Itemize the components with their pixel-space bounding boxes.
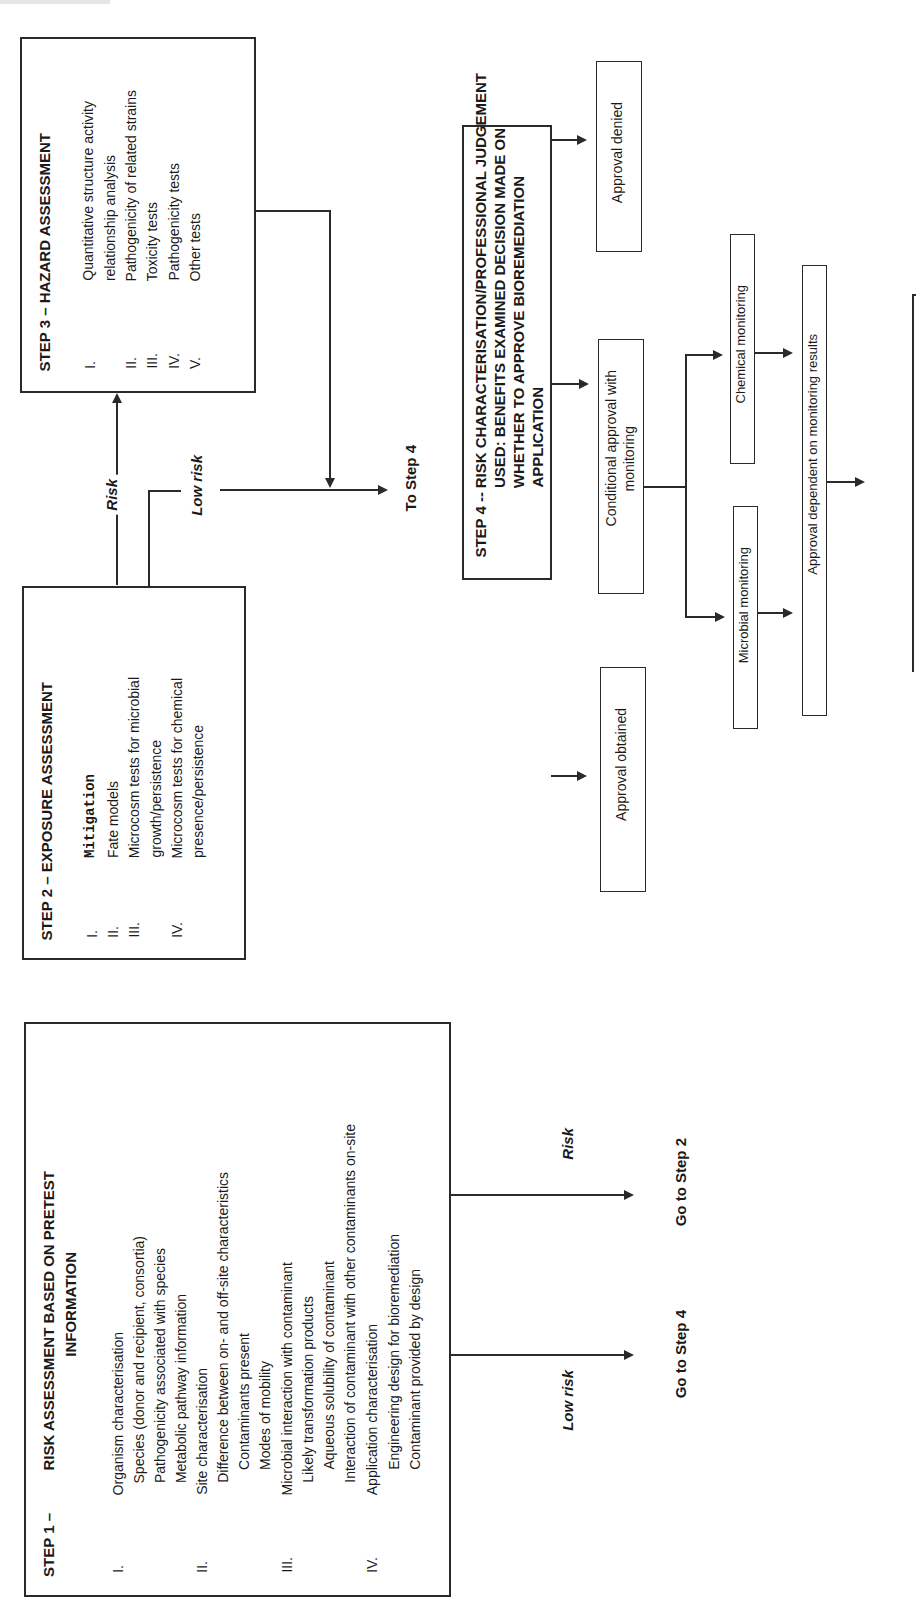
step2-title: STEP 2 – EXPOSURE ASSESSMENT bbox=[38, 682, 57, 940]
step1-numeral-3: III. bbox=[279, 1557, 297, 1573]
step1-numeral-4: IV. bbox=[364, 1557, 382, 1573]
connector-microbial-out bbox=[758, 612, 785, 614]
step3-item-3: Toxicity tests bbox=[144, 202, 162, 281]
connector-step2-low-risk-stub bbox=[148, 490, 150, 586]
arrow-right-icon bbox=[783, 608, 793, 618]
step2-numeral-4: IV. bbox=[169, 922, 187, 938]
step4-risk-characterisation-box: STEP 4 -- RISK CHARACTERISATION/PROFESSI… bbox=[462, 125, 552, 580]
approval-dependent-label: Approval dependent on monitoring results bbox=[805, 334, 821, 575]
step2-exposure-assessment-box: STEP 2 – EXPOSURE ASSESSMENT I. II. III.… bbox=[22, 586, 246, 960]
step1-section2-item3: Modes of mobility bbox=[257, 1361, 275, 1470]
step3-hazard-assessment-box: STEP 3 – HAZARD ASSESSMENT I. II. III. I… bbox=[20, 37, 256, 393]
arrow-up-icon bbox=[112, 393, 122, 403]
approval-dependent-box: Approval dependent on monitoring results bbox=[802, 265, 827, 716]
step2-item-2: Fate models bbox=[105, 781, 123, 858]
to-step4-label: To Step 4 bbox=[402, 445, 421, 511]
arrow-right-icon bbox=[378, 485, 388, 495]
approval-obtained-box: Approval obtained bbox=[600, 667, 646, 892]
connector-step3-out bbox=[255, 210, 331, 212]
step1-section4-item1: Engineering design for bioremediation bbox=[386, 1234, 404, 1470]
arrow-right-icon bbox=[577, 771, 587, 781]
step3-item-1-line2: relationship analysis bbox=[102, 155, 120, 281]
connector-step1-low-risk bbox=[451, 1354, 626, 1356]
connector-step2-low-risk-elbow bbox=[148, 490, 181, 492]
step4-label: STEP 4 -- bbox=[472, 492, 491, 558]
step1-section2-item2: Contaminants present bbox=[236, 1333, 254, 1470]
step3-item-5: Other tests bbox=[187, 213, 205, 281]
arrow-down-icon bbox=[325, 478, 335, 488]
chemical-monitoring-box: Chemical monitoring bbox=[730, 234, 755, 464]
step1-pretest-risk-assessment-box: STEP 1 – RISK ASSESSMENT BASED ON PRETES… bbox=[24, 1022, 451, 1597]
step1-low-risk-label: Low risk bbox=[559, 1370, 578, 1431]
step1-section1-item1: Species (donor and recipient, consortia) bbox=[131, 1236, 149, 1483]
step1-section1-heading: Organism characterisation bbox=[110, 1332, 128, 1495]
step3-numeral-4: IV. bbox=[166, 353, 184, 369]
step1-section3-item1: Likely transformation products bbox=[300, 1296, 318, 1483]
conditional-approval-line1: Conditional approval with bbox=[603, 370, 621, 526]
connector-step1-risk bbox=[451, 1194, 626, 1196]
step2-numeral-3: III. bbox=[126, 922, 144, 938]
step4-title-line2: USED: BENEFITS EXAMINED DECISION MADE ON bbox=[491, 128, 510, 488]
step1-section2-item1: Difference between on- and off-site char… bbox=[215, 1172, 233, 1483]
arrow-right-icon bbox=[713, 350, 723, 360]
connector-step3-down bbox=[329, 210, 331, 480]
connector-conditional-out bbox=[644, 486, 686, 488]
step1-title-line2: INFORMATION bbox=[62, 1252, 81, 1357]
arrow-right-icon bbox=[577, 135, 587, 145]
step3-numeral-5: V. bbox=[187, 357, 205, 369]
step1-section3-item3: Interaction of contaminant with other co… bbox=[342, 1124, 360, 1483]
conditional-approval-box: Conditional approval with monitoring bbox=[598, 339, 644, 594]
step2-numeral-1: I. bbox=[84, 930, 102, 938]
connector-monitoring-split bbox=[685, 354, 687, 618]
microbial-monitoring-label: Microbial monitoring bbox=[736, 547, 752, 663]
step1-label: STEP 1 – bbox=[40, 1513, 59, 1577]
connector-dependent-out bbox=[827, 481, 857, 483]
connector-step4-denied bbox=[551, 139, 579, 141]
approval-obtained-label: Approval obtained bbox=[613, 708, 631, 821]
arrow-right-icon bbox=[783, 348, 793, 358]
step1-numeral-2: II. bbox=[194, 1561, 212, 1573]
microbial-monitoring-box: Microbial monitoring bbox=[733, 506, 758, 729]
step1-section1-item3: Metabolic pathway information bbox=[173, 1294, 191, 1483]
arrow-right-icon bbox=[579, 379, 589, 389]
step2-item-4-line1: Microcosm tests for chemical bbox=[169, 678, 187, 858]
connector-step4-obtained bbox=[551, 775, 579, 777]
step3-item-2: Pathogenicity of related strains bbox=[123, 90, 141, 281]
chemical-monitoring-label: Chemical monitoring bbox=[733, 285, 749, 404]
arrow-right-icon bbox=[855, 477, 865, 487]
step1-section1-item2: Pathogenicity associated with species bbox=[152, 1248, 170, 1483]
step3-item-1-line1: Quantitative structure activity bbox=[80, 101, 98, 281]
goto-step4-label: Go to Step 4 bbox=[672, 1310, 691, 1398]
arrow-right-icon bbox=[715, 612, 725, 622]
step3-numeral-1: I. bbox=[82, 361, 100, 369]
step1-section3-item2: Aqueous solubility of contaminant bbox=[321, 1261, 339, 1470]
arrow-right-icon bbox=[624, 1190, 634, 1200]
step1-section2-heading: Site characterisation bbox=[194, 1368, 212, 1495]
connector-to-microbial bbox=[685, 616, 717, 618]
goto-step2-label: Go to Step 2 bbox=[672, 1138, 691, 1226]
conditional-approval-line2: monitoring bbox=[621, 426, 639, 491]
step2-risk-label: Risk bbox=[103, 475, 122, 515]
step1-section4-heading: Application characterisation bbox=[364, 1324, 382, 1495]
step4-title-line1: RISK CHARACTERISATION/PROFESSIONAL JUDGE… bbox=[472, 73, 491, 488]
step1-section4-item2: Contaminant provided by design bbox=[407, 1269, 425, 1470]
step3-numeral-3: III. bbox=[144, 353, 162, 369]
connector-low-risk-to-step4 bbox=[220, 489, 380, 491]
connector-step4-conditional bbox=[551, 383, 581, 385]
step3-numeral-2: II. bbox=[123, 357, 141, 369]
step2-item-3-line1: Microcosm tests for microbial bbox=[126, 677, 144, 858]
connector-to-chemical bbox=[685, 354, 715, 356]
step1-risk-label: Risk bbox=[559, 1128, 578, 1160]
step1-section3-heading: Microbial interaction with contaminant bbox=[279, 1262, 297, 1495]
approval-denied-box: Approval denied bbox=[596, 61, 642, 252]
scan-artifact bbox=[0, 0, 110, 4]
step3-item-4: Pathogenicity tests bbox=[166, 163, 184, 281]
step3-title: STEP 3 – HAZARD ASSESSMENT bbox=[36, 133, 55, 371]
step2-item-1: Mitigation bbox=[82, 774, 100, 858]
step1-numeral-1: I. bbox=[110, 1565, 128, 1573]
step1-title-line1: RISK ASSESSMENT BASED ON PRETEST bbox=[40, 1171, 59, 1471]
final-outcome-box-top bbox=[912, 294, 916, 296]
step4-title-line4: APPLICATION bbox=[529, 387, 548, 488]
step2-item-3-line2: growth/persistence bbox=[148, 740, 166, 858]
step4-title-line3: WHETHER TO APPROVE BIOREMEDIATION bbox=[510, 176, 529, 488]
